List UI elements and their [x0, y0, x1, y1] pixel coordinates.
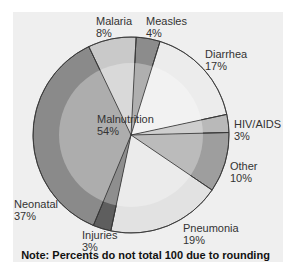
label-injuries-name: Injuries: [82, 229, 117, 241]
label-diarrhea-name: Diarrhea: [205, 48, 247, 60]
label-malaria-name: Malaria: [96, 15, 132, 27]
label-other-pct: 10%: [230, 172, 258, 184]
label-neonatal-pct: 37%: [14, 210, 58, 222]
label-neonatal: Neonatal37%: [14, 198, 58, 222]
label-diarrhea: Diarrhea17%: [205, 48, 247, 72]
label-measles-name: Measles: [146, 15, 187, 27]
label-malaria: Malaria8%: [96, 15, 132, 39]
label-malnutrition: Malnutrition54%: [97, 113, 154, 137]
footnote: Note: Percents do not total 100 due to r…: [0, 249, 291, 261]
label-other: Other10%: [230, 160, 258, 184]
label-hiv: HIV/AIDS3%: [234, 118, 281, 142]
label-measles-pct: 4%: [146, 27, 187, 39]
label-malnutrition-name: Malnutrition: [97, 113, 154, 125]
label-hiv-pct: 3%: [234, 130, 281, 142]
label-measles: Measles4%: [146, 15, 187, 39]
label-diarrhea-pct: 17%: [205, 60, 247, 72]
label-pneumonia-pct: 19%: [183, 234, 239, 246]
label-hiv-name: HIV/AIDS: [234, 118, 281, 130]
label-neonatal-name: Neonatal: [14, 198, 58, 210]
label-other-name: Other: [230, 160, 258, 172]
label-pneumonia: Pneumonia19%: [183, 222, 239, 246]
label-malaria-pct: 8%: [96, 27, 132, 39]
label-malnutrition-pct: 54%: [97, 125, 154, 137]
label-pneumonia-name: Pneumonia: [183, 222, 239, 234]
